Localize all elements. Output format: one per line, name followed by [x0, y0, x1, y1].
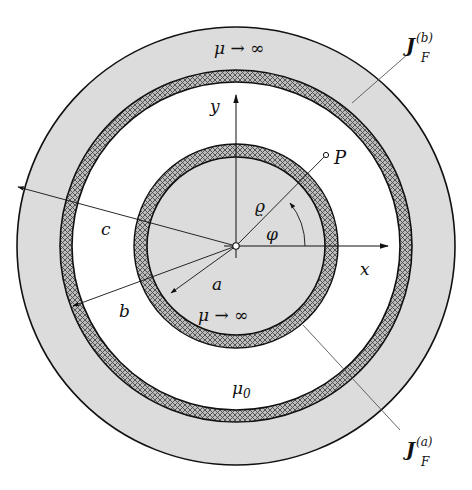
- origin-marker: [233, 243, 239, 249]
- current-a-sub: F: [420, 455, 430, 469]
- radius-a-label: a: [212, 274, 222, 294]
- inner-mu-label: μ → ∞: [198, 305, 248, 325]
- outer-mu-label: μ → ∞: [214, 38, 264, 58]
- rho-label: ϱ: [255, 196, 265, 216]
- coaxial-diagram: μ → ∞ μ → ∞ μ0 y x P ϱ φ a b c J(b) F J(…: [0, 0, 472, 490]
- x-axis-label: x: [360, 259, 370, 279]
- radius-c-label: c: [101, 219, 111, 239]
- radius-b-label: b: [119, 301, 130, 321]
- phi-label: φ: [266, 224, 278, 244]
- current-b-sub: F: [420, 51, 430, 65]
- point-p-label: P: [333, 147, 347, 168]
- point-p-marker: [323, 152, 328, 157]
- y-axis-label: y: [209, 96, 220, 116]
